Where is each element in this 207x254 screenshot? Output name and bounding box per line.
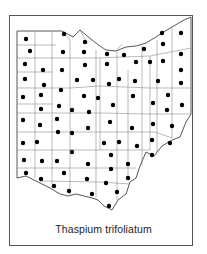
county-record-dot [90,192,94,196]
county-record-dot [82,50,86,54]
county-record-dot [161,42,165,46]
county-record-dot [160,31,164,35]
county-record-dot [130,126,134,130]
county-record-dot [109,167,113,171]
county-record-dot [57,104,61,108]
county-record-dot [96,96,100,100]
county-record-dot [179,52,183,56]
county-record-dot [21,141,25,145]
county-record-dot [107,204,111,208]
county-record-dot [170,124,174,128]
county-record-dot [86,162,90,166]
county-record-dot [104,181,108,185]
species-caption: Thaspium trifoliatum [0,223,207,235]
county-record-dot [83,63,87,67]
county-record-dot [61,50,65,54]
county-record-dot [55,117,59,121]
county-record-dot [179,81,183,85]
county-record-dot [60,68,64,72]
county-record-dot [122,53,126,57]
county-record-dot [85,177,89,181]
county-record-dot [102,141,106,145]
county-record-dot [39,93,43,97]
county-record-dot [135,144,139,148]
county-record-dot [168,141,172,145]
county-record-dot [107,82,111,86]
county-boundaries [17,27,191,200]
county-record-dot [126,162,130,166]
county-record-dot [111,103,115,107]
county-record-dot [39,107,43,111]
county-record-dot [70,150,74,154]
county-record-dot [108,120,112,124]
county-record-dot [117,140,121,144]
presence-dots [21,31,184,208]
county-record-dot [70,108,74,112]
county-record-dot [166,93,170,97]
county-record-dot [62,171,66,175]
county-record-dot [70,131,74,135]
county-record-dot [105,52,109,56]
county-record-dot [24,37,28,41]
county-record-dot [52,184,56,188]
county-record-dot [40,159,44,163]
county-record-dot [67,189,71,193]
county-record-dot [35,140,39,144]
county-record-dot [87,110,91,114]
county-record-dot [117,77,121,81]
county-record-dot [150,153,154,157]
county-record-dot [55,159,59,163]
county-record-dot [24,171,28,175]
county-record-dot [148,60,152,64]
county-record-dot [23,77,27,81]
county-record-dot [151,122,155,126]
county-record-dot [21,118,25,122]
county-record-dot [62,32,66,36]
county-record-dot [105,62,109,66]
county-record-dot [150,138,154,142]
county-record-dot [142,47,146,51]
county-record-dot [133,79,137,83]
county-record-dot [56,130,60,134]
county-record-dot [75,78,79,82]
county-record-dot [59,88,63,92]
county-record-dot [39,177,43,181]
county-record-dot [83,40,87,44]
county-record-dot [21,95,25,99]
county-record-dot [23,62,27,66]
county-record-dot [22,158,26,162]
county-record-dot [179,68,183,72]
county-record-dot [91,78,95,82]
county-record-dot [151,101,155,105]
county-record-dot [41,68,45,72]
county-record-dot [28,49,32,53]
county-record-dot [179,31,183,35]
county-record-dot [165,108,169,112]
county-record-dot [156,79,160,83]
county-record-dot [126,176,130,180]
county-record-dot [134,60,138,64]
county-record-dot [38,123,42,127]
ohio-county-map [0,0,207,254]
county-record-dot [131,94,135,98]
county-record-dot [42,83,46,87]
county-record-dot [109,153,113,157]
county-record-dot [161,59,165,63]
county-record-dot [82,94,86,98]
county-record-dot [180,103,184,107]
county-record-dot [115,190,119,194]
county-record-dot [86,126,90,130]
